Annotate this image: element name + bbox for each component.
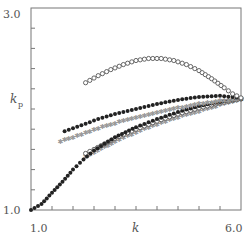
data-point [214, 94, 218, 98]
data-point [147, 120, 151, 124]
data-point [155, 102, 159, 106]
data-point [210, 94, 214, 98]
data-point [151, 119, 155, 123]
y-axis-label-main: k [10, 92, 17, 106]
x-axis-label: k [132, 221, 139, 235]
series-open-circles-upper [84, 56, 244, 100]
data-point [189, 96, 193, 100]
data-point [96, 117, 100, 121]
data-point [68, 171, 72, 175]
data-point [92, 148, 96, 152]
data-point [71, 168, 75, 172]
data-point [105, 70, 109, 74]
data-point [89, 151, 93, 155]
data-point [124, 130, 128, 134]
data-point [88, 78, 92, 82]
data-point [176, 98, 180, 102]
data-point [67, 128, 71, 132]
data-point [163, 57, 167, 61]
x-tick-label-left: 1.0 [30, 222, 48, 235]
data-point [66, 174, 70, 178]
x-tick-label-right: 6.0 [225, 222, 243, 235]
data-point [105, 115, 109, 119]
data-point [218, 94, 222, 98]
x-axis-ticks [52, 206, 220, 210]
data-point [197, 95, 201, 99]
data-point [184, 97, 188, 101]
data-point [172, 99, 176, 103]
data-point [151, 103, 155, 107]
data-point [226, 89, 230, 93]
data-point [163, 100, 167, 104]
data-point [226, 95, 230, 99]
data-point [109, 68, 113, 72]
data-point [176, 60, 180, 64]
data-point [117, 111, 121, 115]
data-point [92, 119, 96, 123]
data-point [205, 94, 209, 98]
data-point [121, 110, 125, 114]
data-point [231, 92, 235, 96]
data-point [201, 95, 205, 99]
data-point [120, 132, 124, 136]
data-point [92, 76, 96, 80]
data-point [130, 108, 134, 112]
data-point [189, 64, 193, 68]
data-point [138, 124, 142, 128]
data-point [100, 116, 104, 120]
data-point [79, 123, 83, 127]
data-point [131, 127, 135, 131]
data-point [82, 158, 86, 162]
data-point [168, 58, 172, 62]
data-point [36, 204, 40, 208]
data-point [113, 66, 117, 70]
data-point [193, 95, 197, 99]
data-point [117, 64, 121, 68]
data-point [134, 107, 138, 111]
data-point [193, 67, 197, 71]
data-point [29, 208, 33, 212]
y-tick-label-bottom: 1.0 [3, 204, 21, 217]
data-point [127, 129, 131, 133]
data-point [130, 60, 134, 64]
data-point [142, 57, 146, 61]
data-point [75, 125, 79, 129]
data-point [147, 104, 151, 108]
data-point [134, 58, 138, 62]
data-point [100, 72, 104, 76]
data-point [155, 56, 159, 60]
data-point [222, 94, 226, 98]
data-point [96, 74, 100, 78]
y-axis-label: k p [10, 92, 23, 109]
data-point [168, 100, 172, 104]
data-point [117, 134, 121, 138]
data-point [172, 58, 176, 62]
y-tick-label-top: 3.0 [3, 8, 21, 21]
data-point [61, 180, 65, 184]
data-point [121, 62, 125, 66]
data-point [147, 56, 151, 60]
data-point [138, 58, 142, 62]
data-point [142, 122, 146, 126]
data-point [63, 129, 67, 133]
data-series: ✱✱✱✱✱✱✱✱✱✱✱✱✱✱✱✱✱✱✱✱✱✱✱✱✱✱✱✱✱✱✱✱✱✱✱✱✱✱✱✱… [29, 56, 244, 212]
data-point [78, 161, 82, 165]
data-point [184, 62, 188, 66]
data-point [222, 86, 226, 90]
data-point [159, 56, 163, 60]
data-point [155, 117, 159, 121]
data-point [151, 56, 155, 60]
data-point [239, 96, 243, 100]
data-point [103, 142, 107, 146]
series-gray-stars-upper: ✱✱✱✱✱✱✱✱✱✱✱✱✱✱✱✱✱✱✱✱✱✱✱✱✱✱✱✱✱✱✱✱✱✱✱✱✱✱✱✱… [57, 95, 244, 145]
data-point [96, 146, 100, 150]
data-point [126, 109, 130, 113]
data-point [88, 120, 92, 124]
data-point [109, 113, 113, 117]
data-point [84, 122, 88, 126]
data-point [75, 164, 79, 168]
data-point [142, 105, 146, 109]
data-point [106, 140, 110, 144]
data-point [138, 106, 142, 110]
data-point [99, 144, 103, 148]
